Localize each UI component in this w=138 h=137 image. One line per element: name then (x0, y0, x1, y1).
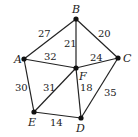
node-label-A: A (13, 53, 22, 66)
node-label-E: E (27, 116, 36, 129)
weighted-graph: 27202132243031183514ABCDEF (0, 0, 138, 137)
edge-weight-E-F: 31 (43, 82, 56, 93)
node-label-C: C (123, 52, 132, 65)
node-C (115, 55, 120, 60)
node-label-D: D (75, 122, 85, 135)
node-E (31, 109, 36, 114)
edge-weight-A-E: 30 (15, 82, 28, 93)
node-label-F: F (78, 70, 87, 83)
edge-weight-C-D: 35 (104, 87, 117, 98)
node-D (78, 115, 83, 120)
edge-weight-B-C: 20 (98, 28, 111, 39)
node-label-B: B (71, 3, 80, 16)
edge-weight-F-D: 18 (80, 82, 93, 93)
edge-weight-E-D: 14 (50, 117, 63, 128)
edge-weight-A-B: 27 (38, 28, 51, 39)
edge-weight-F-C: 24 (90, 52, 103, 63)
labels: 27202132243031183514ABCDEF (13, 3, 132, 135)
edge-weight-A-F: 32 (44, 51, 57, 62)
node-F (73, 65, 78, 70)
node-B (73, 16, 78, 21)
node-A (21, 56, 26, 61)
edge-weight-B-F: 21 (64, 38, 77, 49)
